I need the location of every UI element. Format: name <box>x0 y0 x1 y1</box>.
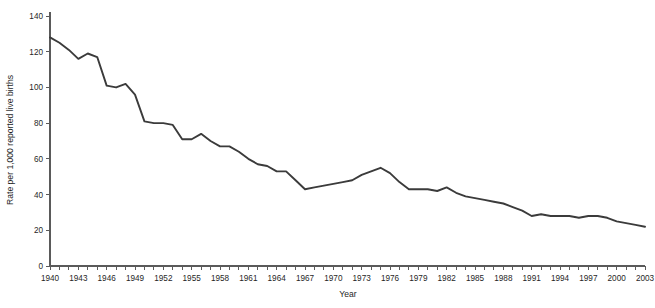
x-tick-label: 1976 <box>381 274 400 283</box>
y-tick-label: 80 <box>34 119 44 128</box>
x-axis-title: Year <box>339 289 357 299</box>
y-tick-label: 20 <box>34 226 44 235</box>
line-chart: 020406080100120140 194019431946194919521… <box>0 0 655 308</box>
y-tick-label: 0 <box>38 262 43 271</box>
x-tick-label: 1970 <box>324 274 343 283</box>
x-tick-label: 1943 <box>69 274 88 283</box>
x-tick-label: 1982 <box>438 274 457 283</box>
x-tick-label: 2003 <box>636 274 655 283</box>
x-tick-label: 1955 <box>183 274 202 283</box>
data-line <box>50 37 645 226</box>
y-axis-title: Rate per 1,000 reported live births <box>5 75 15 205</box>
y-tick-label: 60 <box>34 155 44 164</box>
x-tick-label: 2000 <box>608 274 627 283</box>
chart-canvas: 020406080100120140 194019431946194919521… <box>0 0 655 308</box>
x-tick-label: 1964 <box>268 274 287 283</box>
x-tick-label: 1940 <box>41 274 60 283</box>
x-axis: 1940194319461949195219551958196119641967… <box>41 266 655 283</box>
x-tick-label: 1988 <box>494 274 513 283</box>
data-series-group <box>50 37 645 226</box>
x-tick-label: 1985 <box>466 274 485 283</box>
x-tick-label: 1997 <box>579 274 598 283</box>
y-tick-label: 100 <box>29 83 43 92</box>
x-tick-label: 1994 <box>551 274 570 283</box>
x-tick-label: 1946 <box>98 274 117 283</box>
x-tick-label: 1961 <box>239 274 258 283</box>
x-tick-label: 1973 <box>353 274 372 283</box>
y-axis: 020406080100120140 <box>29 12 50 271</box>
x-tick-label: 1949 <box>126 274 145 283</box>
y-tick-label: 140 <box>29 12 43 21</box>
x-tick-label: 1952 <box>154 274 173 283</box>
x-tick-label: 1958 <box>211 274 230 283</box>
y-tick-label: 40 <box>34 191 44 200</box>
x-tick-label: 1991 <box>523 274 542 283</box>
x-tick-label: 1979 <box>409 274 428 283</box>
y-tick-label: 120 <box>29 48 43 57</box>
x-tick-label: 1967 <box>296 274 315 283</box>
